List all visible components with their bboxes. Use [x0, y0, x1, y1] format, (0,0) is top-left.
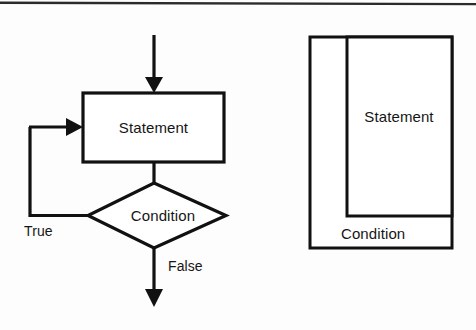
- statement-box-label: Statement: [119, 119, 189, 136]
- flowchart-diagram-svg: Statement Condition True False: [0, 0, 476, 330]
- entry-arrow: [145, 35, 163, 93]
- ns-condition-label: Condition: [341, 225, 405, 242]
- entry-arrow-head: [145, 77, 163, 93]
- figure-container: Statement Condition True False: [0, 0, 476, 330]
- false-edge-label: False: [168, 258, 203, 274]
- true-edge-label: True: [24, 223, 53, 239]
- loopback-arrow-head: [66, 118, 83, 136]
- true-loopback-path: [29, 118, 88, 217]
- condition-diamond-label: Condition: [131, 207, 195, 224]
- false-exit-arrow: [145, 248, 163, 307]
- ns-statement-box: [347, 37, 452, 216]
- flowchart-left: Statement Condition True False: [24, 35, 226, 307]
- ns-statement-label: Statement: [364, 108, 434, 125]
- nassi-shneiderman-right: Statement Condition: [310, 37, 452, 248]
- scan-artifact-line: [0, 2, 476, 6]
- false-arrow-head: [145, 289, 163, 307]
